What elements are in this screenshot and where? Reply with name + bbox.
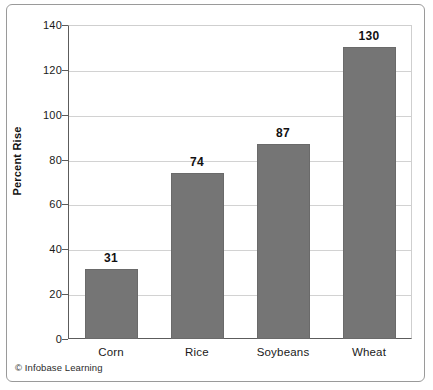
y-tick-label: 80	[14, 155, 62, 166]
y-tick-label: 40	[14, 244, 62, 255]
bar-value-label-soybeans: 87	[243, 127, 323, 140]
y-tick-label: 100	[14, 110, 62, 121]
bar-value-label-rice: 74	[157, 156, 237, 169]
y-tick-mark	[62, 25, 68, 26]
bar-wheat[interactable]	[343, 47, 396, 339]
bar-rice[interactable]	[171, 173, 224, 339]
bar-value-label-corn: 31	[71, 252, 151, 265]
y-tick-mark	[62, 249, 68, 250]
y-tick-label: 140	[14, 20, 62, 31]
x-category-label-corn: Corn	[61, 346, 161, 359]
y-tick-mark	[62, 294, 68, 295]
y-tick-mark	[62, 160, 68, 161]
y-tick-mark	[62, 70, 68, 71]
y-tick-label: 60	[14, 199, 62, 210]
bar-soybeans[interactable]	[257, 144, 310, 339]
copyright-credit: © Infobase Learning	[15, 362, 103, 373]
x-category-label-soybeans: Soybeans	[233, 346, 333, 359]
chart-figure: Percent Rise © Infobase Learning 0204060…	[0, 0, 433, 390]
y-tick-label: 120	[14, 65, 62, 76]
x-category-label-wheat: Wheat	[319, 346, 419, 359]
y-tick-mark	[62, 339, 68, 340]
bar-value-label-wheat: 130	[329, 30, 409, 43]
y-tick-mark	[62, 204, 68, 205]
x-category-label-rice: Rice	[147, 346, 247, 359]
y-axis: Percent Rise	[0, 0, 62, 390]
y-tick-mark	[62, 115, 68, 116]
y-tick-label: 0	[14, 334, 62, 345]
y-tick-label: 20	[14, 289, 62, 300]
bar-corn[interactable]	[85, 269, 138, 339]
